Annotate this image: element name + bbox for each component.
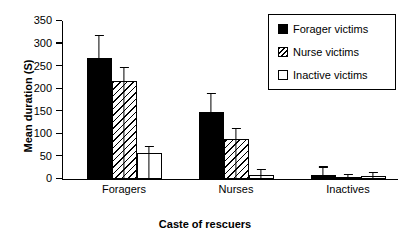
error-bar <box>235 128 236 179</box>
error-bar <box>123 67 124 179</box>
y-tick: 50 <box>56 155 62 156</box>
chart-legend: Forager victimsNurse victimsInactive vic… <box>268 14 396 90</box>
bar-group-foragers: Foragers <box>87 21 162 179</box>
legend-label: Inactive victims <box>293 69 368 81</box>
y-tick-label: 50 <box>40 150 52 162</box>
x-tick-label: Foragers <box>102 183 146 195</box>
y-tick-label: 100 <box>34 127 52 139</box>
error-bar <box>260 169 261 179</box>
error-bar <box>372 172 373 179</box>
legend-item: Forager victims <box>278 23 388 35</box>
error-bar-cap <box>257 169 266 170</box>
y-tick: 100 <box>56 133 62 134</box>
x-axis-label: Caste of rescuers <box>0 218 410 230</box>
error-bar-cap <box>344 174 353 175</box>
y-tick: 250 <box>56 65 62 66</box>
legend-swatch-icon <box>278 70 288 80</box>
bar-chart-figure: Mean duration (S) Caste of rescuers 0501… <box>0 0 410 241</box>
legend-label: Forager victims <box>293 23 368 35</box>
y-tick-label: 250 <box>34 60 52 72</box>
x-axis-line <box>62 179 398 180</box>
legend-item: Inactive victims <box>278 69 388 81</box>
y-tick-label: 300 <box>34 37 52 49</box>
y-tick: 0 <box>56 178 62 179</box>
y-tick: 150 <box>56 110 62 111</box>
x-tick-label: Nurses <box>219 183 254 195</box>
error-bar <box>322 166 323 179</box>
error-bar-cap <box>207 93 216 94</box>
error-bar-cap <box>95 35 104 36</box>
y-tick-label: 350 <box>34 14 52 26</box>
y-tick-label: 0 <box>46 172 52 184</box>
y-axis-label: Mean duration (S) <box>22 31 34 181</box>
error-bar-cap <box>369 172 378 173</box>
bar-group-nurses: Nurses <box>199 21 274 179</box>
legend-item: Nurse victims <box>278 46 388 58</box>
legend-swatch-icon <box>278 47 288 57</box>
y-tick: 350 <box>56 20 62 21</box>
legend-label: Nurse victims <box>293 46 359 58</box>
error-bar-cap <box>120 67 129 68</box>
error-bar <box>98 35 99 179</box>
error-bar <box>210 93 211 179</box>
y-tick: 300 <box>56 42 62 43</box>
error-bar-cap <box>232 128 241 129</box>
x-tick-label: Inactives <box>326 183 369 195</box>
error-bar <box>347 174 348 179</box>
y-axis-line <box>62 21 63 179</box>
legend-swatch-icon <box>278 24 288 34</box>
error-bar-cap <box>319 166 328 167</box>
y-tick-label: 200 <box>34 82 52 94</box>
y-tick-label: 150 <box>34 105 52 117</box>
y-tick: 200 <box>56 88 62 89</box>
error-bar <box>148 146 149 179</box>
error-bar-cap <box>145 146 154 147</box>
